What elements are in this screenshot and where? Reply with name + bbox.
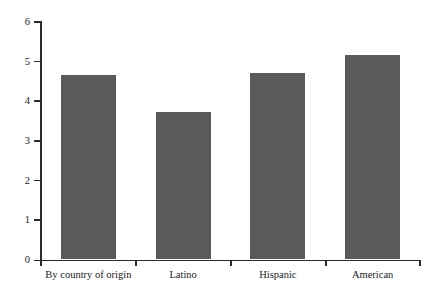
x-axis-tick — [230, 260, 232, 266]
y-axis-tick — [34, 219, 41, 221]
x-axis-tick — [325, 260, 327, 266]
y-axis-tick-label: 4 — [8, 95, 30, 106]
y-axis-tick-label: 5 — [8, 56, 30, 67]
y-axis-tick-label: 1 — [8, 214, 30, 225]
x-axis-category-label: Latino — [136, 268, 231, 281]
y-axis-tick — [34, 140, 41, 142]
bar — [61, 75, 116, 260]
bar — [345, 55, 400, 260]
x-axis-tick — [135, 260, 137, 266]
y-axis-tick — [34, 100, 41, 102]
x-axis-tick — [40, 260, 42, 266]
y-axis-tick — [34, 21, 41, 23]
y-axis-tick-label: 3 — [8, 135, 30, 146]
bar — [250, 73, 305, 259]
y-axis-tick — [34, 61, 41, 63]
bar-chart: 6 5 4 3 2 1 0 By country of origin Latin… — [0, 0, 430, 298]
y-axis-tick-label: 6 — [8, 16, 30, 27]
y-axis-tick-label: 0 — [8, 254, 30, 265]
x-axis-category-label: By country of origin — [41, 268, 136, 281]
plot-area: 6 5 4 3 2 1 0 By country of origin Latin… — [0, 0, 430, 298]
x-axis-category-label: American — [325, 268, 420, 281]
x-axis-tick — [419, 260, 421, 266]
x-axis-category-label: Hispanic — [231, 268, 326, 281]
y-axis-tick-label: 2 — [8, 175, 30, 186]
y-axis-tick — [34, 180, 41, 182]
bar — [156, 112, 211, 260]
